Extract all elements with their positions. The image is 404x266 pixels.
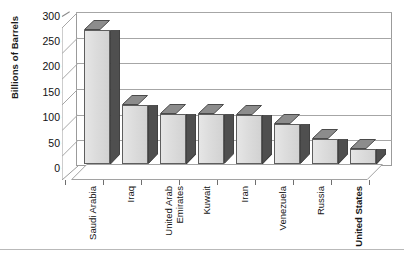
bar-front-face bbox=[160, 114, 186, 164]
y-tick-label: 200 bbox=[26, 60, 60, 72]
bar-venezuela bbox=[274, 124, 300, 164]
bar-side-face bbox=[338, 139, 348, 164]
y-axis-title: Billions of Barrels bbox=[9, 0, 20, 118]
y-tick-label: 50 bbox=[26, 137, 60, 149]
y-tick-label: 150 bbox=[26, 86, 60, 98]
bar-top-face bbox=[198, 104, 224, 114]
x-tick-mark bbox=[369, 180, 370, 185]
x-tick-mark bbox=[293, 180, 294, 185]
bar-side-face bbox=[110, 30, 120, 165]
x-tick-mark bbox=[255, 180, 256, 185]
bar-side-face bbox=[186, 114, 196, 164]
bar-front-face bbox=[198, 114, 224, 164]
y-axis-tick-labels: 300 250 200 150 100 50 0 bbox=[26, 0, 60, 186]
bar-front-face bbox=[350, 149, 376, 164]
x-tick-mark bbox=[331, 180, 332, 185]
bar-side-face bbox=[300, 124, 310, 164]
bar-side-face bbox=[262, 115, 272, 164]
bar-iraq bbox=[122, 105, 148, 164]
x-tick-mark bbox=[179, 180, 180, 185]
bar-saudi-arabia bbox=[84, 30, 110, 165]
y-tick-label: 300 bbox=[26, 10, 60, 22]
y-tick-label: 0 bbox=[26, 162, 60, 174]
bottom-divider bbox=[0, 249, 404, 250]
oil-reserves-bar-chart: Billions of Barrels 300 250 200 150 100 … bbox=[0, 0, 404, 266]
bar-side-face bbox=[148, 105, 158, 164]
bar-kuwait bbox=[198, 114, 224, 164]
y-tick-label: 100 bbox=[26, 111, 60, 123]
bar-russia bbox=[312, 139, 338, 164]
bar-top-face bbox=[312, 129, 338, 139]
plot-area bbox=[62, 12, 392, 180]
bar-front-face bbox=[312, 139, 338, 164]
bar-top-face bbox=[350, 139, 376, 149]
bar-top-face bbox=[122, 95, 148, 105]
bar-front-face bbox=[122, 105, 148, 164]
bar-united-states bbox=[350, 149, 376, 164]
x-tick-mark bbox=[141, 180, 142, 185]
x-tick-mark bbox=[65, 180, 66, 185]
bar-front-face bbox=[274, 124, 300, 164]
bar-iran bbox=[236, 115, 262, 164]
bar-front-face bbox=[84, 30, 110, 165]
y-tick-label: 250 bbox=[26, 35, 60, 47]
x-tick-mark bbox=[103, 180, 104, 185]
bar-united-arab-emirates bbox=[160, 114, 186, 164]
bar-top-face bbox=[274, 114, 300, 124]
bar-top-face bbox=[84, 20, 110, 30]
bar-top-face bbox=[160, 104, 186, 114]
bar-side-face bbox=[224, 114, 234, 164]
bar-top-face bbox=[236, 105, 262, 115]
bars-layer bbox=[62, 12, 392, 180]
bar-side-face bbox=[376, 149, 386, 164]
x-tick-mark bbox=[217, 180, 218, 185]
bar-front-face bbox=[236, 115, 262, 164]
